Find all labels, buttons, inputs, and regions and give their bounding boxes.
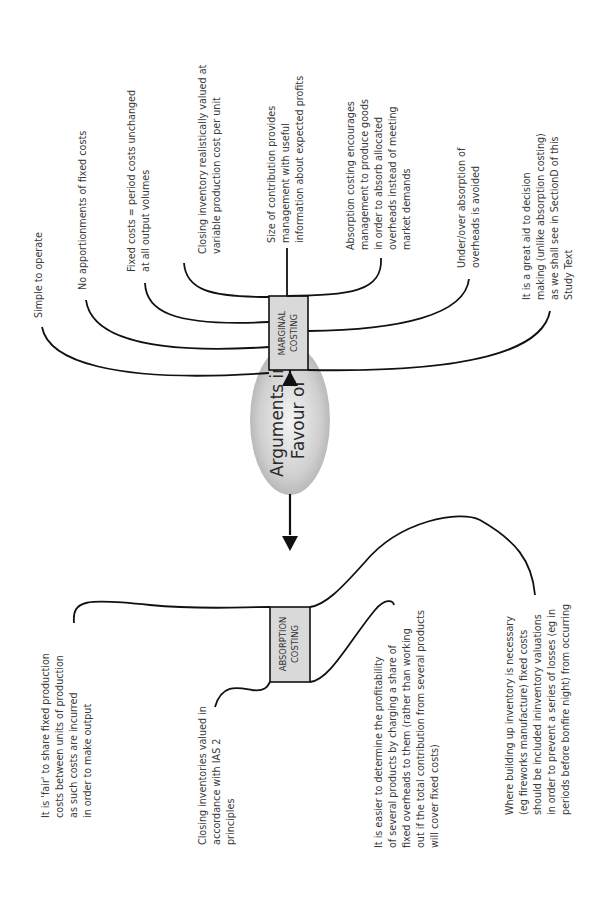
arrow-down-icon <box>282 536 298 551</box>
argument-line: in order to prevent a series of losses (… <box>546 609 557 815</box>
absorption-argument-3: It is easier to determine the profitabil… <box>373 610 440 848</box>
mind-map-diagram: Arguments in Favour of MARGINAL COSTING … <box>0 0 602 907</box>
argument-line: periods before bonfire night) from occur… <box>560 604 571 815</box>
argument-line: No apportionments of fixed costs <box>77 131 88 290</box>
argument-line: at all output volumes <box>140 170 151 272</box>
argument-line: in order to absorb allocated <box>373 117 384 250</box>
argument-line: (eg fireworks manufacture) fixed costs <box>518 630 529 815</box>
argument-line: of several products by charging a share … <box>387 644 398 848</box>
argument-line: Where building up inventory is necessary <box>504 616 515 815</box>
center-label-line2: Favour of <box>288 380 308 460</box>
argument-line: Absorption costing encourages <box>345 101 356 250</box>
marginal-argument-6: Absorption costing encourages management… <box>345 99 412 250</box>
marginal-title-line1: MARGINAL <box>277 310 287 355</box>
argument-line: Fixed costs = period costs unchanged <box>126 90 137 272</box>
argument-line: out if the total contribution from sever… <box>415 610 426 848</box>
argument-line: overheads instead of meeting <box>387 106 398 250</box>
argument-line: It is easier to determine the profitabil… <box>373 656 384 848</box>
marginal-title-line2: COSTING <box>289 314 299 352</box>
argument-line: management with useful <box>280 123 291 243</box>
absorption-argument-2: Closing inventories valued in accordance… <box>197 706 236 845</box>
argument-line: should be included ininventory valuation… <box>532 614 543 815</box>
argument-line: It is 'fair' to share fixed production <box>40 653 51 818</box>
marginal-argument-7: Under/over absorption of overheads is av… <box>456 147 481 268</box>
argument-line: information about expected profits <box>294 76 305 243</box>
argument-line: as we shall see in SectionD of this <box>549 136 560 300</box>
marginal-argument-4: Closing inventory realistically valued a… <box>197 64 222 254</box>
argument-line: Simple to operate <box>33 232 44 318</box>
argument-line: Closing inventory realistically valued a… <box>197 64 208 254</box>
argument-line: Study Text <box>563 250 574 300</box>
argument-line: principles <box>225 799 236 845</box>
marginal-argument-1: Simple to operate <box>33 232 44 318</box>
argument-line: as such costs are incurred <box>68 692 79 818</box>
argument-line: Under/over absorption of <box>456 147 467 268</box>
argument-line: Closing inventories valued in <box>197 706 208 845</box>
absorption-title-line1: ABSORPTION <box>278 617 288 672</box>
absorption-title-line2: COSTING <box>290 625 300 663</box>
marginal-argument-3: Fixed costs = period costs unchanged at … <box>126 90 151 272</box>
argument-line: Size of contribution provides <box>266 106 277 243</box>
argument-line: market demands <box>401 169 412 250</box>
argument-line: making (unlike absorption costing) <box>535 133 546 300</box>
absorption-argument-1: It is 'fair' to share fixed production c… <box>40 653 93 818</box>
marginal-costing-node: MARGINAL COSTING <box>269 296 308 370</box>
arrow-to-absorption <box>282 494 298 551</box>
absorption-costing-node: ABSORPTION COSTING <box>270 607 310 682</box>
argument-line: overheads is avoided <box>470 166 481 268</box>
argument-line: management to produce goods <box>359 99 370 250</box>
argument-line: accordance with IAS 2 <box>211 739 222 845</box>
argument-line: fixed overheads to them (rather than wor… <box>401 628 412 848</box>
absorption-argument-4: Where building up inventory is necessary… <box>504 604 571 815</box>
center-label-line1: Arguments in <box>267 363 287 477</box>
argument-line: costs between units of production <box>54 655 65 818</box>
argument-line: It is a great aid to decision <box>521 172 532 300</box>
argument-line: will cover fixed costs) <box>429 744 440 848</box>
argument-line: in order to make output <box>82 704 93 818</box>
marginal-argument-5: Size of contribution provides management… <box>266 76 305 243</box>
marginal-argument-2: No apportionments of fixed costs <box>77 131 88 290</box>
argument-line: variable production cost per unit <box>211 97 222 254</box>
marginal-argument-8: It is a great aid to decision making (un… <box>521 133 574 300</box>
